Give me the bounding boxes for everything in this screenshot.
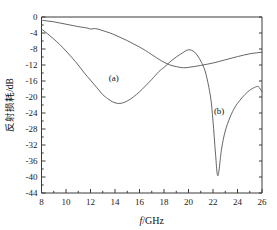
y-tick-label: -16 <box>26 76 38 86</box>
y-tick-label: -8 <box>30 44 38 54</box>
reflection-loss-chart: 0-4-8-12-16-20-24-28-32-36-40-44 8101214… <box>0 0 277 230</box>
y-axis-title-text: 反射损耗/dB <box>4 78 15 132</box>
y-tick-label: -28 <box>26 124 38 134</box>
y-tick-label: -20 <box>26 92 38 102</box>
x-axis-ticks <box>42 189 263 193</box>
y-axis-tick-labels: 0-4-8-12-16-20-24-28-32-36-40-44 <box>26 12 39 198</box>
curve-label-b: (b) <box>214 106 225 116</box>
curve-label-a: (a) <box>109 73 119 83</box>
chart-page: 0-4-8-12-16-20-24-28-32-36-40-44 8101214… <box>0 0 277 230</box>
y-tick-label: -32 <box>26 140 38 150</box>
x-tick-label: 20 <box>184 197 194 207</box>
y-tick-label: 0 <box>33 12 38 22</box>
y-tick-label: -24 <box>26 108 38 118</box>
data-series-group <box>42 20 263 176</box>
series-curve-b <box>42 29 263 176</box>
y-tick-label: -36 <box>26 156 38 166</box>
x-tick-label: 26 <box>258 197 268 207</box>
x-tick-label: 24 <box>233 197 243 207</box>
x-tick-label: 16 <box>135 197 145 207</box>
axis-frame <box>42 17 263 193</box>
y-tick-label: -4 <box>30 28 38 38</box>
y-axis-title: 反射损耗/dB <box>4 78 15 132</box>
x-tick-label: 18 <box>160 197 170 207</box>
y-tick-label: -12 <box>26 60 38 70</box>
x-tick-label: 10 <box>62 197 72 207</box>
x-axis-tick-labels: 8101214161820222426 <box>39 197 267 207</box>
x-axis-title: f/GHz <box>140 215 165 226</box>
plot-frame <box>42 17 263 193</box>
x-tick-label: 8 <box>39 197 44 207</box>
x-tick-label: 14 <box>111 197 121 207</box>
y-tick-label: -40 <box>26 172 38 182</box>
x-tick-label: 22 <box>209 197 218 207</box>
y-axis-ticks <box>42 17 263 193</box>
y-tick-label: -44 <box>26 188 38 198</box>
x-axis-title-unit: /GHz <box>142 215 164 226</box>
x-tick-label: 12 <box>86 197 95 207</box>
